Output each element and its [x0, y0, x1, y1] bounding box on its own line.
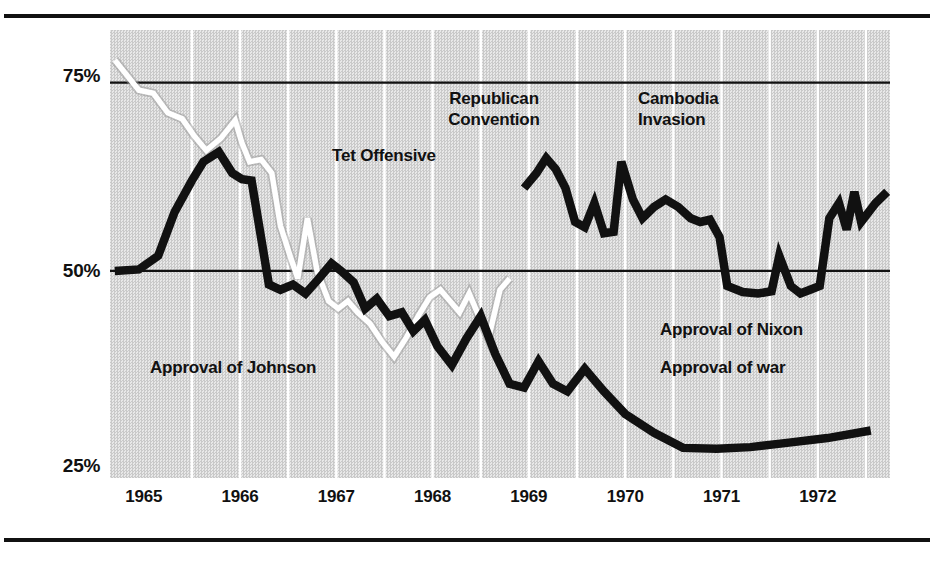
x-tick-label-1966: 1966 — [205, 487, 275, 507]
chart-figure: 75% 50% 25% 1965196619671968196919701971… — [0, 0, 942, 565]
x-tick-label-1965: 1965 — [109, 487, 179, 507]
x-tick-label-1971: 1971 — [686, 487, 756, 507]
y-tick-label-25: 25% — [14, 455, 100, 477]
x-tick-label-1972: 1972 — [783, 487, 853, 507]
x-tick-label-1967: 1967 — [301, 487, 371, 507]
x-tick-label-1969: 1969 — [494, 487, 564, 507]
bottom-rule — [4, 538, 930, 542]
series-label-approval-of-nixon: Approval of Nixon — [660, 320, 900, 341]
series-label-approval-of-war: Approval of war — [660, 358, 900, 379]
annotation-cambodia-invasion: Cambodia Invasion — [638, 89, 818, 130]
annotation-republican-convention: Republican Convention — [414, 89, 574, 130]
top-rule — [4, 14, 930, 18]
series-label-approval-of-johnson: Approval of Johnson — [150, 358, 420, 379]
x-tick-label-1970: 1970 — [590, 487, 660, 507]
x-tick-label-1968: 1968 — [398, 487, 468, 507]
y-tick-label-75: 75% — [14, 65, 100, 87]
y-tick-label-50: 50% — [14, 260, 100, 282]
annotation-tet-offensive: Tet Offensive — [332, 146, 502, 167]
